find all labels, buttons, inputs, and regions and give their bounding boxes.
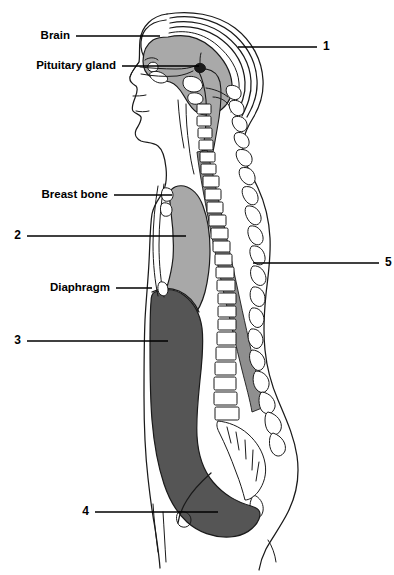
vertebra-body	[214, 392, 237, 405]
xiphoid-process	[158, 282, 168, 296]
vertebra-body	[215, 362, 236, 375]
vertebra-body	[215, 254, 232, 265]
label-pituitary-gland: Pituitary gland	[36, 59, 116, 71]
frontal-sinus	[148, 62, 158, 72]
vertebra-body	[217, 332, 236, 345]
sternum-body-segment	[160, 203, 172, 216]
vertebra-body	[198, 128, 212, 138]
vertebra-body	[216, 267, 234, 278]
vertebra-body	[197, 116, 211, 126]
vertebra-body	[214, 377, 236, 390]
vertebra-body	[218, 319, 236, 330]
vertebra-body	[216, 347, 236, 360]
vertebra-body	[218, 293, 236, 304]
vertebra-body	[218, 306, 236, 317]
label-number-5: 5	[385, 255, 392, 269]
vertebra-body	[200, 152, 215, 162]
vertebra-body	[217, 280, 235, 291]
label-number-3: 3	[14, 333, 21, 347]
sphenoid-cell-2	[188, 93, 203, 104]
vertebra-body	[209, 215, 226, 226]
vertebra-body	[213, 241, 230, 252]
vertebra-body	[205, 189, 221, 200]
vertebra-body	[201, 164, 216, 174]
vertebra-body	[197, 104, 211, 114]
vertebra-body	[203, 176, 219, 187]
label-brain: Brain	[41, 29, 70, 41]
anatomy-figure: Brain Pituitary gland Breast bone Diaphr…	[0, 0, 394, 575]
vertebra-body	[211, 228, 228, 239]
label-diaphragm: Diaphragm	[50, 281, 110, 293]
vertebra-body	[207, 202, 223, 213]
label-breast-bone: Breast bone	[42, 188, 108, 200]
label-number-4: 4	[82, 504, 89, 518]
anatomy-diagram-canvas: Brain Pituitary gland Breast bone Diaphr…	[0, 0, 394, 575]
vertebra-body	[215, 407, 239, 420]
pituitary-gland	[195, 63, 206, 72]
vertebra-body	[199, 140, 213, 150]
label-number-1: 1	[323, 39, 330, 53]
label-number-2: 2	[14, 228, 21, 242]
